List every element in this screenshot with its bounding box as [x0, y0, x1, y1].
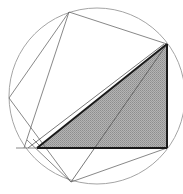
- geometry-diagram: [0, 0, 183, 194]
